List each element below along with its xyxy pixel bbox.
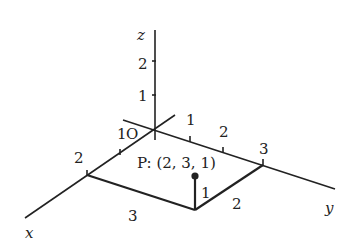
y-tick-label-3: 3: [259, 140, 269, 158]
y-tick-label-2: 2: [219, 123, 229, 141]
height-label: 1: [201, 184, 211, 202]
x-tick-label-2: 2: [74, 149, 84, 167]
z-axis-label: z: [136, 26, 145, 44]
y-axis-label: y: [324, 199, 334, 217]
box-edge-x: [87, 175, 195, 210]
z-tick-label-1: 1: [138, 87, 148, 105]
origin-label: O: [126, 125, 138, 143]
point-p-label: P: (2, 3, 1): [137, 154, 216, 172]
coordinate-diagram: z 2 1 1 O 2 x 1 2 3 y P: (2, 3, 1) 3 2 1: [0, 0, 360, 243]
box-edge-x-label: 3: [128, 207, 138, 225]
point-p-marker: [191, 172, 198, 179]
y-tick-label-1: 1: [186, 111, 196, 129]
z-tick-label-2: 2: [138, 55, 148, 73]
box-edge-y-label: 2: [232, 195, 242, 213]
x-axis-label: x: [25, 224, 34, 242]
